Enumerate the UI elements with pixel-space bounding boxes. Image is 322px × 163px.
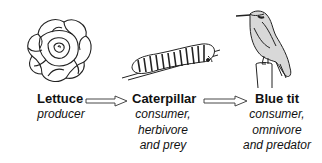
role-line: consumer, [238,107,316,123]
organism-name-lettuce: Lettuce [37,91,83,106]
organism-role-lettuce: producer [31,107,91,123]
organism-role-caterpillar: consumer, herbivore and prey [130,107,196,154]
lettuce-icon [18,8,98,86]
organism-name-blue-tit: Blue tit [255,91,299,106]
arrow-caterpillar-to-blue-tit [203,95,249,107]
role-line: producer [31,107,91,123]
role-line: omnivore [238,123,316,139]
role-line: and prey [130,138,196,154]
arrow-lettuce-to-caterpillar [85,95,129,107]
role-line: and predator [238,138,316,154]
blue-tit-icon [236,6,306,88]
role-line: consumer, [130,107,196,123]
role-line: herbivore [130,123,196,139]
organism-role-blue-tit: consumer, omnivore and predator [238,107,316,154]
caterpillar-icon [122,38,222,88]
organism-name-caterpillar: Caterpillar [132,91,196,106]
